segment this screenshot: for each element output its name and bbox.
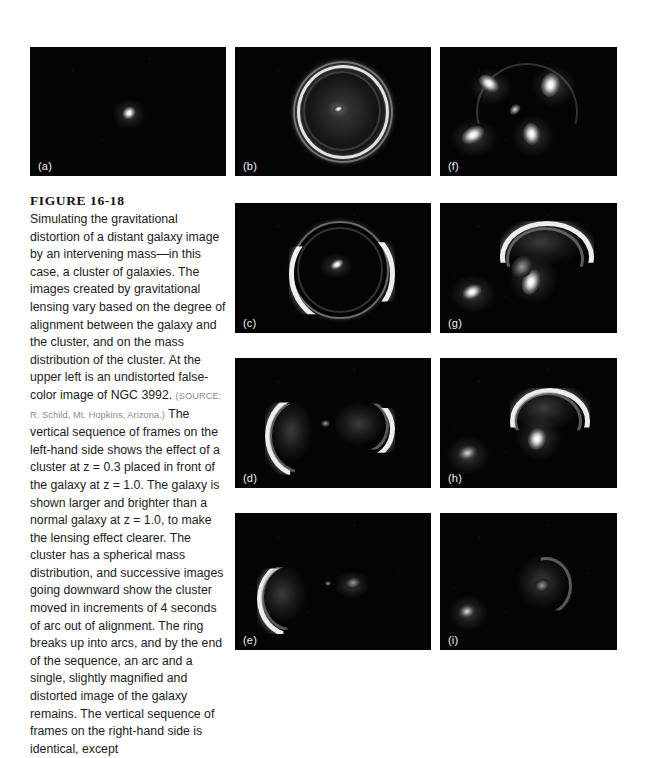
panel-label-a: (a)	[38, 160, 52, 172]
panel-a-sky	[30, 47, 226, 176]
figure-caption-text: Simulating the gravitational distortion …	[30, 211, 230, 758]
figure-panel-b: (b)	[235, 47, 431, 176]
figure-panel-g: (g)	[440, 203, 617, 333]
figure-number: FIGURE 16-18	[30, 193, 230, 209]
figure-panel-c: (c)	[235, 203, 431, 333]
panel-e-sky	[235, 513, 431, 650]
panel-f-sky	[440, 47, 617, 176]
panel-label-i: (i)	[448, 634, 458, 646]
figure-panel-e: (e)	[235, 513, 431, 650]
panel-i-sky	[440, 513, 617, 650]
figure-panel-f: (f)	[440, 47, 617, 176]
caption-part-two: The vertical sequence of frames on the l…	[30, 407, 223, 756]
panel-h-sky	[440, 358, 617, 488]
panel-label-d: (d)	[243, 472, 257, 484]
figure-panel-i: (i)	[440, 513, 617, 650]
figure-panel-h: (h)	[440, 358, 617, 488]
panel-label-g: (g)	[448, 317, 462, 329]
panel-g-sky	[440, 203, 617, 333]
panel-label-e: (e)	[243, 634, 257, 646]
figure-caption-block: FIGURE 16-18 Simulating the gravitationa…	[30, 193, 230, 758]
panel-label-f: (f)	[448, 160, 459, 172]
panel-label-c: (c)	[243, 317, 256, 329]
panel-c-sky	[235, 203, 431, 333]
figure-panel-a: (a)	[30, 47, 226, 176]
panel-label-b: (b)	[243, 160, 257, 172]
panel-d-sky	[235, 358, 431, 488]
panel-label-h: (h)	[448, 472, 462, 484]
panel-b-sky	[235, 47, 431, 176]
caption-part-one: Simulating the gravitational distortion …	[30, 212, 226, 402]
figure-panel-d: (d)	[235, 358, 431, 488]
